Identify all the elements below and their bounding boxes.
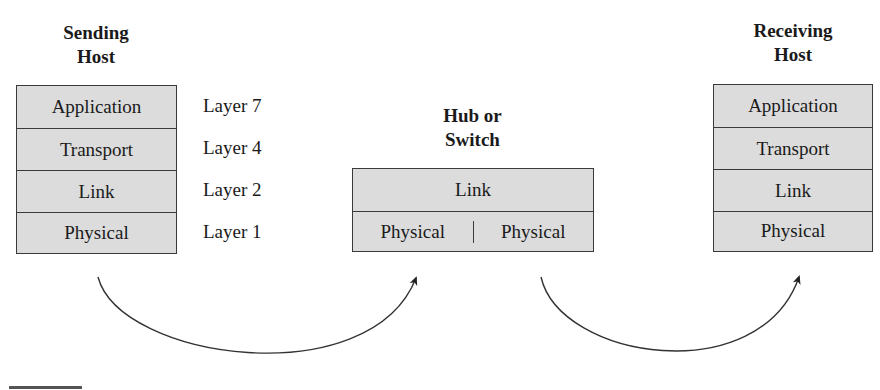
- arrow-hub-to-receiving-icon: [541, 277, 799, 351]
- footer-rule: [9, 386, 82, 389]
- flow-arrows: [0, 0, 880, 390]
- arrow-sending-to-hub-icon: [98, 277, 416, 353]
